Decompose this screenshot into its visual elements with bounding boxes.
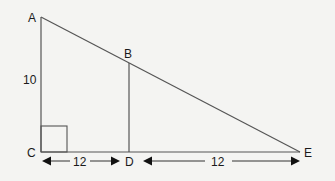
measure-de: 12	[211, 155, 225, 169]
label-a: A	[28, 11, 36, 25]
measure-cd: 12	[73, 155, 87, 169]
arrow-right-icon	[291, 157, 300, 166]
label-d: D	[125, 155, 134, 169]
label-c: C	[27, 146, 36, 160]
segment-ae	[41, 17, 300, 152]
measure-ac: 10	[23, 73, 37, 87]
label-e: E	[304, 146, 312, 160]
arrow-left-icon	[143, 157, 152, 166]
arrow-left-icon	[42, 157, 51, 166]
label-b: B	[124, 47, 132, 61]
arrow-right-icon	[111, 157, 120, 166]
triangle-diagram: A B C D E 10 12 12	[0, 0, 335, 181]
right-angle-marker	[41, 126, 67, 152]
